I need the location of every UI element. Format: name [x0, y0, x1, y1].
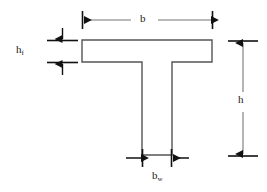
dimension-label-hf: hf [14, 44, 26, 55]
dimension-label-bw-main: b [152, 169, 158, 181]
t-beam-diagram-svg [0, 0, 267, 192]
dimension-b [83, 11, 213, 29]
dimension-hf [47, 28, 78, 75]
dimension-label-b: b [138, 13, 148, 24]
tee-outline-path [82, 40, 212, 155]
dimension-label-bw: bw [150, 170, 165, 181]
dimension-label-h: h [236, 94, 246, 105]
tee-section-outline [82, 40, 212, 155]
dimension-label-b-main: b [140, 12, 146, 24]
figure-canvas: b hf h bw [0, 0, 267, 192]
dimension-label-h-main: h [238, 93, 244, 105]
dimension-label-hf-sub: f [22, 49, 24, 57]
dimension-label-bw-sub: w [158, 175, 163, 183]
dimension-label-hf-main: h [16, 43, 22, 55]
